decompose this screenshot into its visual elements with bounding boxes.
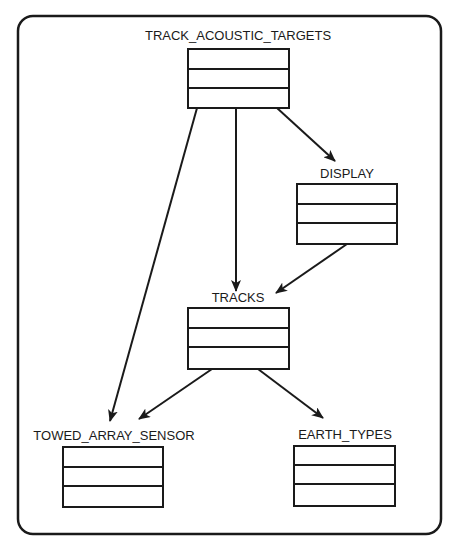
- node-label: EARTH_TYPES: [298, 427, 392, 442]
- edge-tracks-to-earth-types: [258, 369, 323, 418]
- node-box: [294, 446, 395, 506]
- node-label: TRACK_ACOUSTIC_TARGETS: [145, 28, 331, 43]
- node-display[interactable]: DISPLAY: [297, 166, 397, 244]
- node-label: TOWED_ARRAY_SENSOR: [33, 428, 194, 443]
- edge-track-acoustic-targets-to-display: [277, 108, 335, 161]
- node-earth-types[interactable]: EARTH_TYPES: [294, 427, 395, 506]
- edges: [110, 108, 347, 421]
- diagram-canvas: TRACK_ACOUSTIC_TARGETS DISPLAY TRACKS TO…: [0, 0, 460, 553]
- node-towed-array-sensor[interactable]: TOWED_ARRAY_SENSOR: [33, 428, 194, 507]
- edge-track-acoustic-targets-to-towed-array-sensor: [110, 108, 197, 421]
- node-track-acoustic-targets[interactable]: TRACK_ACOUSTIC_TARGETS: [145, 28, 331, 108]
- node-label: DISPLAY: [320, 166, 374, 181]
- node-tracks[interactable]: TRACKS: [188, 290, 289, 369]
- node-label: TRACKS: [212, 290, 265, 305]
- node-box: [188, 49, 289, 108]
- edge-display-to-tracks: [276, 244, 347, 293]
- edge-tracks-to-towed-array-sensor: [139, 369, 212, 419]
- node-box: [188, 308, 289, 369]
- node-box: [297, 184, 397, 244]
- node-box: [63, 447, 163, 507]
